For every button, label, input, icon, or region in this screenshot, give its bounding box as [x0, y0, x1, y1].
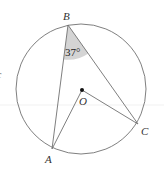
- radius-oa: [52, 90, 82, 149]
- label-o: O: [79, 95, 87, 107]
- label-c: C: [141, 125, 149, 137]
- radius-oc: [82, 90, 138, 124]
- label-b: B: [63, 10, 70, 22]
- cropped-edge-glyph: c: [0, 69, 2, 80]
- center-point-o: [80, 88, 84, 92]
- chord-bc: [68, 25, 138, 124]
- chord-ba: [52, 25, 68, 149]
- label-a: A: [44, 153, 52, 165]
- circle-diagram: B O C A 37° c: [0, 0, 164, 181]
- angle-value-label: 37°: [65, 46, 80, 58]
